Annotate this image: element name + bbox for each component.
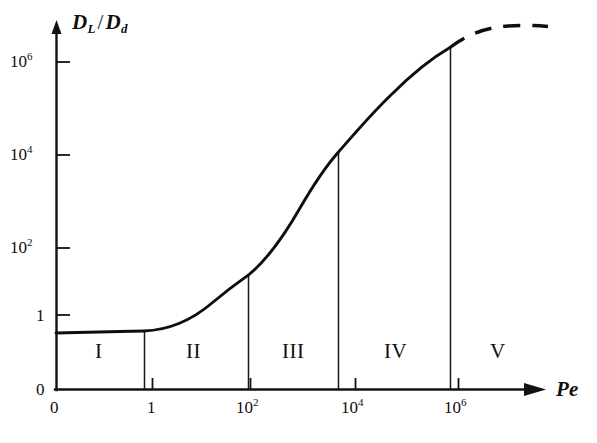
region-dividers <box>145 48 451 389</box>
dispersion-curve-solid <box>56 48 450 334</box>
x-tick-label-1e6: 106 <box>444 399 467 416</box>
x-axis-group <box>55 378 546 396</box>
region-label-ii: II <box>186 341 201 362</box>
y-tick-label-0: 0 <box>36 381 45 398</box>
y-axis-title: DL/Dd <box>72 12 128 33</box>
region-label-i: I <box>95 341 103 362</box>
x-axis-arrowhead <box>524 383 546 396</box>
dispersion-curve-dashed-asymptote <box>450 25 548 47</box>
x-tick-label-1: 1 <box>147 399 156 416</box>
y-tick-label-1e2: 102 <box>10 239 33 256</box>
region-label-iii: III <box>282 341 304 362</box>
y-tick-label-1e4: 104 <box>10 146 33 163</box>
y-axis-title-slash: / <box>96 10 106 34</box>
region-label-iv: IV <box>384 341 407 362</box>
x-axis-title: Pe <box>556 379 579 400</box>
y-tick-label-1: 1 <box>36 307 45 324</box>
x-tick-label-1e2: 102 <box>236 399 259 416</box>
x-tick-label-0: 0 <box>50 399 59 416</box>
chart-canvas <box>0 0 597 443</box>
chart-figure: 106 104 102 1 0 0 1 102 104 106 DL/Dd Pe… <box>0 0 597 443</box>
y-axis-group <box>52 20 71 390</box>
y-tick-label-1e6: 106 <box>10 53 33 70</box>
region-label-v: V <box>490 341 506 362</box>
x-tick-label-1e4: 104 <box>341 399 364 416</box>
y-axis-arrowhead <box>52 20 62 34</box>
